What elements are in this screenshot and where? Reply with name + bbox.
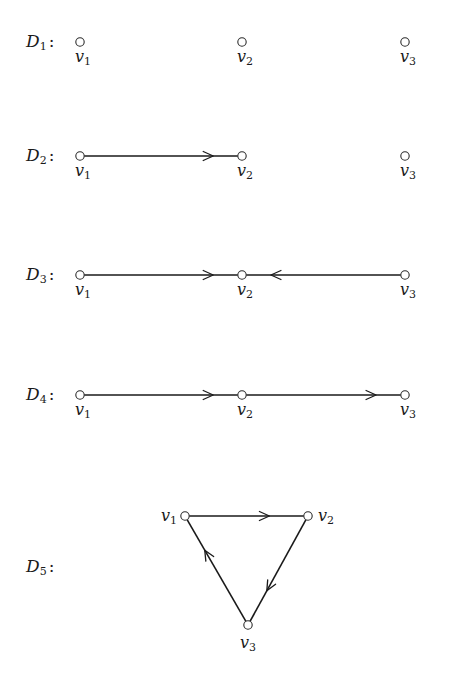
digraph-d4-title: D4: bbox=[25, 384, 54, 406]
digraph-d4-vertex-label-v2-letter: v bbox=[237, 400, 246, 419]
digraph-d4-vertex-v2 bbox=[238, 391, 246, 399]
digraph-d3-vertex-label-v2-subscript: 2 bbox=[246, 288, 253, 301]
digraph-d5-title-colon: : bbox=[49, 556, 55, 576]
digraph-d1-vertex-v2 bbox=[238, 38, 246, 46]
digraph-d2-vertex-v1 bbox=[76, 152, 84, 160]
digraph-d1-vertices bbox=[76, 38, 409, 46]
digraph-d1-vertex-label-v1-subscript: 1 bbox=[84, 55, 91, 68]
digraph-d2-vertex-label-v2-subscript: 2 bbox=[246, 169, 253, 182]
digraph-d5-labels: D5:v1v2v3 bbox=[25, 506, 334, 654]
digraph-d3-labels: D3:v1v2v3 bbox=[25, 264, 416, 301]
digraph-d2-title-subscript: 2 bbox=[40, 154, 47, 167]
digraph-d2-vertex-v2 bbox=[238, 152, 246, 160]
digraph-d3-vertex-label-v3-subscript: 3 bbox=[409, 288, 416, 301]
digraph-d2-vertex-label-v3-letter: v bbox=[400, 161, 409, 180]
digraph-d3-title-subscript: 3 bbox=[40, 273, 47, 286]
digraph-d5-vertex-label-v2-subscript: 2 bbox=[327, 514, 334, 527]
digraph-d3-vertex-label-v1-letter: v bbox=[75, 280, 84, 299]
digraph-d1-vertex-label-v2-subscript: 2 bbox=[246, 55, 253, 68]
digraph-d2-vertex-label-v1-letter: v bbox=[75, 161, 84, 180]
digraph-d4-title-letter: D bbox=[25, 384, 40, 404]
digraph-d2-title-letter: D bbox=[25, 145, 40, 165]
digraph-d2-title-colon: : bbox=[49, 145, 55, 165]
digraph-d3-vertex-v1 bbox=[76, 271, 84, 279]
digraph-d1-vertex-label-v1-letter: v bbox=[75, 47, 84, 66]
digraph-d1-vertex-label-v3-subscript: 3 bbox=[409, 55, 416, 68]
digraph-d2-vertex-label-v2-letter: v bbox=[237, 161, 246, 180]
digraph-d5-vertex-label-v3-subscript: 3 bbox=[249, 641, 256, 654]
digraph-d4-vertex-label-v2: v2 bbox=[237, 400, 253, 421]
digraph-d5-arc-v3-v1 bbox=[187, 520, 246, 622]
digraph-d3-vertex-v2 bbox=[238, 271, 246, 279]
digraph-d3-vertex-v3 bbox=[401, 271, 409, 279]
digraph-d3-title-colon: : bbox=[49, 264, 55, 284]
digraph-d1-vertex-v1 bbox=[76, 38, 84, 46]
digraph-d4-title-colon: : bbox=[49, 384, 55, 404]
digraph-d3-vertex-label-v1-subscript: 1 bbox=[84, 288, 91, 301]
digraph-d1-vertex-label-v3-letter: v bbox=[400, 47, 409, 66]
digraph-d2-vertex-label-v3: v3 bbox=[400, 161, 416, 182]
digraph-d5-vertex-label-v3: v3 bbox=[240, 633, 256, 654]
digraph-figure: D1:v1v2v3D2:v1v2v3D3:v1v2v3D4:v1v2v3D5:v… bbox=[0, 0, 449, 679]
digraph-d2-vertex-label-v2: v2 bbox=[237, 161, 253, 182]
digraph-d3-title: D3: bbox=[25, 264, 54, 286]
digraph-d4-labels: D4:v1v2v3 bbox=[25, 384, 416, 421]
digraph-d5-vertices bbox=[181, 512, 312, 629]
digraph-d5-vertex-label-v2: v2 bbox=[318, 506, 334, 527]
digraph-d5-vertex-v2 bbox=[304, 512, 312, 520]
digraph-d4-vertex-label-v3-subscript: 3 bbox=[409, 408, 416, 421]
digraph-d4-vertex-label-v2-subscript: 2 bbox=[246, 408, 253, 421]
digraph-d3-title-letter: D bbox=[25, 264, 40, 284]
digraph-d1-title: D1: bbox=[25, 31, 54, 53]
digraph-d4-vertex-v1 bbox=[76, 391, 84, 399]
digraph-d4-vertex-label-v1: v1 bbox=[75, 400, 91, 421]
digraph-d1-title-colon: : bbox=[49, 31, 55, 51]
digraph-d1-vertex-label-v1: v1 bbox=[75, 47, 91, 68]
digraph-d5-vertex-v1 bbox=[181, 512, 189, 520]
digraph-d1-title-letter: D bbox=[25, 31, 40, 51]
digraph-d3-vertex-label-v2: v2 bbox=[237, 280, 253, 301]
digraph-d4-vertex-label-v1-subscript: 1 bbox=[84, 408, 91, 421]
digraph-d5-vertex-label-v1-subscript: 1 bbox=[170, 514, 177, 527]
digraph-d1-vertex-label-v2-letter: v bbox=[237, 47, 246, 66]
digraph-d3-vertex-label-v2-letter: v bbox=[237, 280, 246, 299]
digraph-d4-vertex-label-v3-letter: v bbox=[400, 400, 409, 419]
digraph-d2-vertex-label-v3-subscript: 3 bbox=[409, 169, 416, 182]
digraph-d2-labels: D2:v1v2v3 bbox=[25, 145, 416, 182]
digraph-d5-title-subscript: 5 bbox=[40, 565, 47, 578]
digraph-d5-vertex-label-v1-letter: v bbox=[161, 506, 170, 525]
digraph-d4-vertex-v3 bbox=[401, 391, 409, 399]
digraph-d1-labels: D1:v1v2v3 bbox=[25, 31, 416, 68]
digraph-d5-vertex-label-v3-letter: v bbox=[240, 633, 249, 652]
digraph-d1-vertex-v3 bbox=[401, 38, 409, 46]
digraph-d3-vertex-label-v3: v3 bbox=[400, 280, 416, 301]
digraph-d5-arcs bbox=[187, 512, 306, 622]
digraph-d2-arcs bbox=[84, 152, 238, 161]
digraph-d2-title: D2: bbox=[25, 145, 54, 167]
digraph-d2-vertex-v3 bbox=[401, 152, 409, 160]
digraph-d2-vertex-label-v1-subscript: 1 bbox=[84, 169, 91, 182]
digraph-d3-vertex-label-v1: v1 bbox=[75, 280, 91, 301]
digraph-d1-vertex-label-v2: v2 bbox=[237, 47, 253, 68]
digraph-d5-arc-v2-v3 bbox=[250, 520, 306, 622]
digraph-d2-vertex-label-v1: v1 bbox=[75, 161, 91, 182]
digraph-d3-vertex-label-v3-letter: v bbox=[400, 280, 409, 299]
digraph-d4-vertex-label-v1-letter: v bbox=[75, 400, 84, 419]
digraph-d5-vertex-label-v2-letter: v bbox=[318, 506, 327, 525]
digraph-d5-vertex-v3 bbox=[244, 621, 252, 629]
digraph-d4-title-subscript: 4 bbox=[40, 393, 47, 406]
digraph-d5-title: D5: bbox=[25, 556, 54, 578]
digraph-d1-title-subscript: 1 bbox=[40, 40, 47, 53]
digraph-d5-vertex-label-v1: v1 bbox=[161, 506, 177, 527]
digraph-d4-vertex-label-v3: v3 bbox=[400, 400, 416, 421]
digraph-d1-vertex-label-v3: v3 bbox=[400, 47, 416, 68]
digraph-d5-title-letter: D bbox=[25, 556, 40, 576]
